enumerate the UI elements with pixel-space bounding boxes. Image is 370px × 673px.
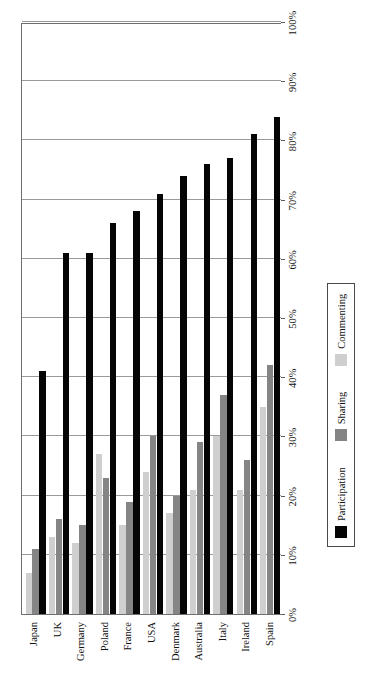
plot-area xyxy=(21,23,281,615)
x-tick-50 xyxy=(281,318,285,319)
x-tick-90 xyxy=(281,81,285,82)
bar-group xyxy=(164,24,187,614)
bar-group xyxy=(234,24,257,614)
bar-germany-sharing[interactable] xyxy=(79,525,85,614)
bar-ireland-commenting[interactable] xyxy=(237,490,243,614)
category-label-australia: Australia xyxy=(187,617,211,673)
category-label-japan: Japan xyxy=(22,617,46,673)
x-tick-label-60: 60% xyxy=(287,250,298,270)
bar-japan-commenting[interactable] xyxy=(26,573,32,614)
legend-label: Participation xyxy=(336,467,347,521)
bar-usa-participation[interactable] xyxy=(157,194,163,614)
bar-denmark-participation[interactable] xyxy=(180,176,186,614)
bar-group xyxy=(46,24,69,614)
category-label-usa: USA xyxy=(140,617,164,673)
chart-rotation-wrapper: JapanUKGermanyPolandFranceUSADenmarkAust… xyxy=(0,0,370,673)
bar-italy-commenting[interactable] xyxy=(213,436,219,614)
bar-spain-commenting[interactable] xyxy=(260,407,266,614)
bar-group xyxy=(140,24,163,614)
bar-germany-commenting[interactable] xyxy=(72,543,78,614)
x-tick-label-0: 0% xyxy=(287,608,298,622)
x-tick-label-70: 70% xyxy=(287,191,298,211)
category-label-italy: Italy xyxy=(210,617,234,673)
bar-spain-participation[interactable] xyxy=(274,117,280,614)
x-tick-30 xyxy=(281,436,285,437)
bar-uk-commenting[interactable] xyxy=(49,537,55,614)
x-tick-80 xyxy=(281,140,285,141)
legend-swatch-commenting-icon xyxy=(335,354,347,366)
bar-groups xyxy=(22,24,281,614)
legend-label: Commenting xyxy=(336,294,347,349)
bar-group xyxy=(117,24,140,614)
bar-uk-participation[interactable] xyxy=(63,253,69,614)
bar-spain-sharing[interactable] xyxy=(267,365,273,614)
bar-group xyxy=(23,24,46,614)
category-label-germany: Germany xyxy=(69,617,93,673)
bar-chart-figure: JapanUKGermanyPolandFranceUSADenmarkAust… xyxy=(0,0,370,673)
legend-label: Sharing xyxy=(336,392,347,425)
x-tick-label-20: 20% xyxy=(287,487,298,507)
bar-australia-participation[interactable] xyxy=(204,164,210,614)
x-tick-10 xyxy=(281,555,285,556)
value-axis: 0%10%20%30%40%50%60%70%80%90%100% xyxy=(281,23,327,615)
x-tick-label-30: 30% xyxy=(287,428,298,448)
legend-swatch-sharing-icon xyxy=(335,429,347,441)
x-tick-0 xyxy=(281,614,285,615)
category-label-france: France xyxy=(116,617,140,673)
bar-ireland-participation[interactable] xyxy=(251,134,257,614)
bar-uk-sharing[interactable] xyxy=(56,519,62,614)
bar-france-participation[interactable] xyxy=(133,211,139,614)
x-tick-100 xyxy=(281,22,285,23)
bar-japan-participation[interactable] xyxy=(39,371,45,614)
x-tick-label-40: 40% xyxy=(287,368,298,388)
x-tick-label-100: 100% xyxy=(287,11,298,36)
bar-japan-sharing[interactable] xyxy=(32,549,38,614)
x-tick-label-10: 10% xyxy=(287,546,298,566)
bar-denmark-sharing[interactable] xyxy=(173,496,179,614)
x-tick-60 xyxy=(281,259,285,260)
bar-group xyxy=(70,24,93,614)
bar-australia-sharing[interactable] xyxy=(197,442,203,614)
gridline-100 xyxy=(22,21,281,22)
bar-france-commenting[interactable] xyxy=(119,525,125,614)
x-tick-label-90: 90% xyxy=(287,72,298,92)
bar-denmark-commenting[interactable] xyxy=(166,513,172,614)
category-axis: JapanUKGermanyPolandFranceUSADenmarkAust… xyxy=(21,617,281,673)
legend-item-commenting[interactable]: Commenting xyxy=(335,294,347,366)
category-label-denmark: Denmark xyxy=(163,617,187,673)
legend-item-participation[interactable]: Participation xyxy=(335,467,347,538)
x-tick-40 xyxy=(281,377,285,378)
bar-poland-participation[interactable] xyxy=(110,223,116,614)
plot-frame xyxy=(21,23,281,615)
x-tick-70 xyxy=(281,200,285,201)
legend-item-sharing[interactable]: Sharing xyxy=(335,392,347,442)
category-label-uk: UK xyxy=(46,617,70,673)
x-tick-label-80: 80% xyxy=(287,132,298,152)
category-label-ireland: Ireland xyxy=(234,617,258,673)
bar-group xyxy=(211,24,234,614)
category-label-poland: Poland xyxy=(93,617,117,673)
x-tick-label-50: 50% xyxy=(287,309,298,329)
bar-poland-commenting[interactable] xyxy=(96,454,102,614)
bar-ireland-sharing[interactable] xyxy=(244,460,250,614)
bar-germany-participation[interactable] xyxy=(86,253,92,614)
bar-australia-commenting[interactable] xyxy=(190,490,196,614)
bar-italy-sharing[interactable] xyxy=(220,395,226,614)
legend-swatch-participation-icon xyxy=(335,526,347,538)
bar-group xyxy=(258,24,281,614)
chart-legend: ParticipationSharingCommenting xyxy=(327,283,355,547)
bar-usa-commenting[interactable] xyxy=(143,472,149,614)
bar-france-sharing[interactable] xyxy=(126,502,132,614)
x-tick-20 xyxy=(281,496,285,497)
bar-usa-sharing[interactable] xyxy=(150,436,156,614)
category-label-spain: Spain xyxy=(257,617,281,673)
bar-group xyxy=(93,24,116,614)
bar-italy-participation[interactable] xyxy=(227,158,233,614)
bar-poland-sharing[interactable] xyxy=(103,478,109,614)
bar-group xyxy=(187,24,210,614)
